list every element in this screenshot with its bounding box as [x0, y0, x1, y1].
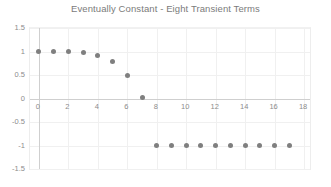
gridline-horizontal — [30, 169, 310, 170]
data-point — [140, 95, 145, 100]
chart-container: Eventually Constant - Eight Transient Te… — [0, 0, 331, 187]
x-axis-line — [30, 99, 310, 100]
chart-title: Eventually Constant - Eight Transient Te… — [0, 3, 331, 14]
data-point — [243, 143, 248, 148]
y-tick-label: -1 — [0, 140, 25, 149]
data-point — [257, 143, 262, 148]
data-point — [51, 49, 56, 54]
x-tick-label: 2 — [56, 102, 78, 111]
x-tick-label: 8 — [145, 102, 167, 111]
x-tick-label: 16 — [263, 102, 285, 111]
data-point — [184, 143, 189, 148]
x-tick-label: 12 — [204, 102, 226, 111]
data-point — [169, 143, 174, 148]
gridline-horizontal — [30, 122, 310, 123]
data-point — [272, 143, 277, 148]
data-point — [110, 59, 115, 64]
y-tick-label: 1.5 — [0, 23, 25, 32]
y-tick-label: 0.5 — [0, 70, 25, 79]
x-tick-label: 6 — [115, 102, 137, 111]
x-tick-label: 0 — [27, 102, 49, 111]
gridline-horizontal — [30, 75, 310, 76]
x-tick-label: 4 — [86, 102, 108, 111]
plot-area — [29, 27, 311, 170]
data-point — [125, 73, 130, 78]
data-point — [228, 143, 233, 148]
data-point — [154, 143, 159, 148]
y-tick-label: -1.5 — [0, 164, 25, 173]
data-point — [213, 143, 218, 148]
gridline-horizontal — [30, 28, 310, 29]
y-tick-label: -0.5 — [0, 117, 25, 126]
data-point — [66, 49, 71, 54]
x-tick-label: 18 — [292, 102, 314, 111]
data-point — [198, 143, 203, 148]
x-tick-label: 10 — [174, 102, 196, 111]
x-tick-label: 14 — [233, 102, 255, 111]
data-point — [287, 143, 292, 148]
gridline-horizontal — [30, 52, 310, 53]
data-point — [36, 49, 41, 54]
y-tick-label: 1 — [0, 46, 25, 55]
y-tick-label: 0 — [0, 93, 25, 102]
data-point — [81, 50, 86, 55]
data-point — [95, 53, 100, 58]
